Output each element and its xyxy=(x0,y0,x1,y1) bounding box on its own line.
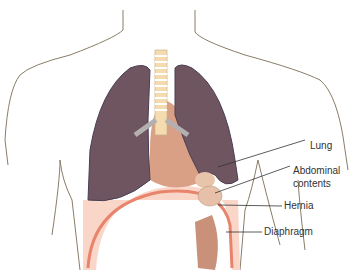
label-lung: Lung xyxy=(310,140,332,152)
label-abdominal-contents-1: Abdominal xyxy=(293,165,340,177)
esophagus xyxy=(195,215,218,270)
label-diaphragm: Diaphragm xyxy=(264,226,313,238)
label-hernia: Hernia xyxy=(284,200,313,212)
label-abdominal-contents-2: contents xyxy=(293,178,331,190)
hernia xyxy=(198,186,222,206)
abdominal-contents xyxy=(195,172,215,188)
